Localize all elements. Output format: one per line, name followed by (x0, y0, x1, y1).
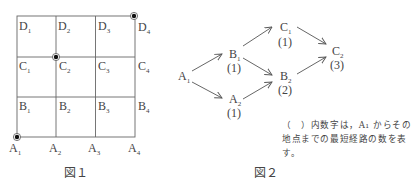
grid-border (17, 16, 135, 137)
label-d1: D1 (19, 19, 32, 35)
label-a2: A2 (49, 141, 62, 157)
figure1-caption: 図１ (64, 166, 88, 180)
label-a4: A4 (128, 141, 141, 157)
figure2-caption: 図２ (254, 166, 278, 180)
edge-c1-c2 (297, 27, 326, 44)
edge-b2-c2 (297, 57, 326, 74)
edge-a1-a2 (192, 82, 222, 98)
figure1-grid (17, 16, 135, 137)
path-count: (1) (227, 61, 241, 75)
svg-text:A1: A1 (178, 69, 191, 85)
figure2-edges (192, 27, 326, 99)
svg-text:C1: C1 (280, 20, 292, 36)
label-d4: D4 (138, 20, 151, 36)
node-b1: B1 (1) (227, 47, 241, 75)
marked-point-d4 (130, 12, 137, 19)
label-d3: D3 (98, 19, 111, 35)
label-b4: B4 (138, 99, 150, 115)
label-c3: C3 (98, 59, 110, 75)
path-count: (2) (278, 83, 292, 97)
edge-a2-b2 (243, 82, 272, 99)
label-c1: C1 (19, 59, 31, 75)
label-c2: C2 (59, 59, 71, 75)
node-c2: C2 (3) (330, 44, 344, 72)
label-c4: C4 (138, 59, 150, 75)
label-b1: B1 (19, 99, 31, 115)
label-d2: D2 (58, 19, 71, 35)
marked-point-a1 (13, 133, 20, 140)
path-count: (1) (278, 35, 292, 49)
path-count: (3) (330, 58, 344, 72)
node-a2: A2 (1) (227, 92, 242, 120)
label-a1: A1 (9, 141, 22, 157)
node-b2: B2 (2) (278, 69, 292, 97)
edge-b1-b2 (243, 58, 272, 75)
label-b3: B3 (98, 99, 110, 115)
node-a1: A1 (178, 69, 191, 85)
edge-a1-b1 (192, 54, 222, 71)
label-a3: A3 (88, 141, 101, 157)
path-count: (1) (227, 106, 241, 120)
figure2-note: （ ）内数字は，A₁ からその地点までの最短経路の数を表す。 (282, 118, 417, 160)
label-b2: B2 (59, 99, 71, 115)
node-c1: C1 (1) (278, 20, 292, 49)
edge-b1-c1 (243, 27, 272, 46)
